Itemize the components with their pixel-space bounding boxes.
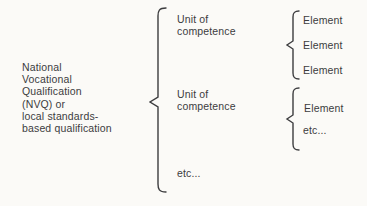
unit-1-elements-brace (285, 9, 301, 81)
unit-2-elements-brace (285, 86, 301, 152)
unit-1-element-2-label: Element (303, 39, 343, 51)
nvq-structure-diagram: National Vocational Qualification (NVQ) … (0, 0, 367, 206)
qualification-label: National Vocational Qualification (NVQ) … (22, 61, 147, 134)
unit-2-label: Unit of competence (177, 88, 236, 112)
unit-2-element-1-label: Element (304, 102, 344, 114)
qualification-units-brace (147, 6, 169, 196)
unit-1-element-3-label: Element (303, 64, 343, 76)
unit-1-label: Unit of competence (177, 13, 236, 37)
unit-1-element-1-label: Element (303, 14, 343, 26)
unit-2-elements-etc-label: etc... (303, 124, 327, 136)
units-etc-label: etc... (177, 167, 201, 179)
